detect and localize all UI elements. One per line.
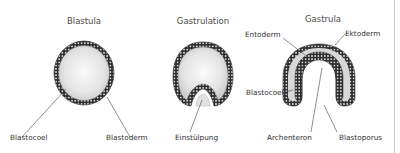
label-archenteron: Archenteron: [267, 133, 312, 142]
panel-title-gastrulation: Gastrulation: [177, 16, 229, 26]
label-entoderm: Entoderm: [245, 30, 281, 39]
embryo-development-diagram: Blastula Blastocoel Blastoderm Gastrulat…: [0, 0, 400, 153]
label-blastocoel: Blastocoel: [10, 133, 48, 142]
leader-blastoderm: [107, 97, 130, 137]
panel-blastula: Blastula Blastocoel Blastoderm: [10, 16, 148, 142]
panel-gastrula: Gastrula Entoderm Ektoderm Blastocoel Ar…: [245, 14, 382, 142]
gastrula-shape: [283, 44, 355, 106]
label-blastoderm: Blastoderm: [106, 133, 148, 142]
label-blastocoel-gastrula: Blastocoel: [246, 88, 284, 97]
label-einstuelpung: Einstülpung: [175, 133, 218, 142]
leader-blastocoel: [22, 89, 66, 137]
blastula-shape: [54, 41, 114, 105]
leader-ektoderm: [335, 34, 345, 45]
label-blastoporus: Blastoporus: [339, 133, 382, 142]
gastrulation-shape: [173, 42, 233, 106]
panel-title-blastula: Blastula: [67, 16, 101, 26]
leader-einstuelpung: [190, 100, 202, 132]
leader-archenteron: [311, 68, 322, 132]
panel-gastrulation: Gastrulation Einstülpung: [173, 16, 233, 142]
leader-blastoporus: [324, 105, 337, 132]
panel-title-gastrula: Gastrula: [305, 14, 341, 24]
label-ektoderm: Ektoderm: [345, 29, 380, 38]
